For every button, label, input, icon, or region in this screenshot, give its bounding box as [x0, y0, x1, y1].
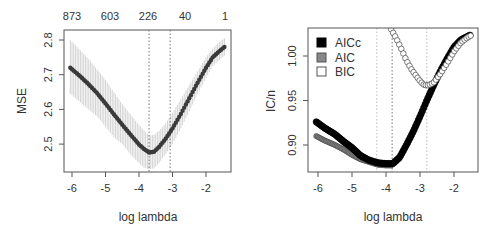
- ic-plot: -6-5-4-3-2 0.900.951.00 AICc AIC BIC log…: [264, 27, 478, 225]
- top-axis-label: 603: [101, 10, 119, 22]
- left-y-label: MSE: [15, 88, 29, 114]
- legend-bic-label: BIC: [335, 65, 355, 79]
- top-axis-label: 226: [139, 10, 157, 22]
- figure-canvas: -6-5-4-3-2 2.52.62.72.8 873603226401 log…: [0, 0, 491, 236]
- legend-bic-swatch: [317, 67, 326, 76]
- x-tick-label: -3: [415, 182, 425, 194]
- x-tick-label: -5: [101, 182, 111, 194]
- x-tick-label: -4: [381, 182, 391, 194]
- legend-aic-swatch: [317, 53, 326, 62]
- left-y-axis: 2.52.62.72.8: [42, 32, 64, 151]
- left-x-label: log lambda: [119, 210, 178, 224]
- legend-aicc-label: AICc: [335, 36, 361, 50]
- x-tick-label: -6: [67, 182, 77, 194]
- x-tick-label: -4: [134, 182, 144, 194]
- figure: -6-5-4-3-2 2.52.62.72.8 873603226401 log…: [0, 0, 491, 236]
- y-tick-label: 2.6: [42, 102, 54, 117]
- top-axis-label: 40: [179, 10, 191, 22]
- y-tick-label: 2.5: [42, 136, 54, 151]
- top-axis-label: 873: [63, 10, 81, 22]
- left-top-axis: 873603226401: [63, 10, 228, 22]
- mse-point: [222, 45, 226, 49]
- bic-point: [468, 33, 474, 39]
- legend: AICc AIC BIC: [317, 36, 361, 79]
- x-tick-label: -2: [201, 182, 211, 194]
- x-tick-label: -6: [313, 182, 323, 194]
- x-tick-label: -3: [168, 182, 178, 194]
- x-tick-label: -5: [347, 182, 357, 194]
- y-tick-label: 1.00: [286, 45, 298, 66]
- y-tick-label: 2.8: [42, 32, 54, 47]
- top-axis-label: 1: [222, 10, 228, 22]
- y-tick-label: 0.95: [286, 90, 298, 111]
- y-tick-label: 2.7: [42, 67, 54, 82]
- y-tick-label: 0.90: [286, 134, 298, 155]
- x-tick-label: -2: [449, 182, 459, 194]
- legend-aicc-swatch: [317, 38, 326, 47]
- right-y-label: IC/n: [264, 90, 278, 112]
- right-x-label: log lambda: [364, 210, 423, 224]
- right-x-axis: -6-5-4-3-2: [313, 172, 459, 194]
- right-y-axis: 0.900.951.00: [286, 45, 308, 155]
- left-x-axis: -6-5-4-3-2: [67, 172, 211, 194]
- mse-cv-plot: -6-5-4-3-2 2.52.62.72.8 873603226401 log…: [15, 10, 231, 224]
- legend-aic-label: AIC: [335, 51, 355, 65]
